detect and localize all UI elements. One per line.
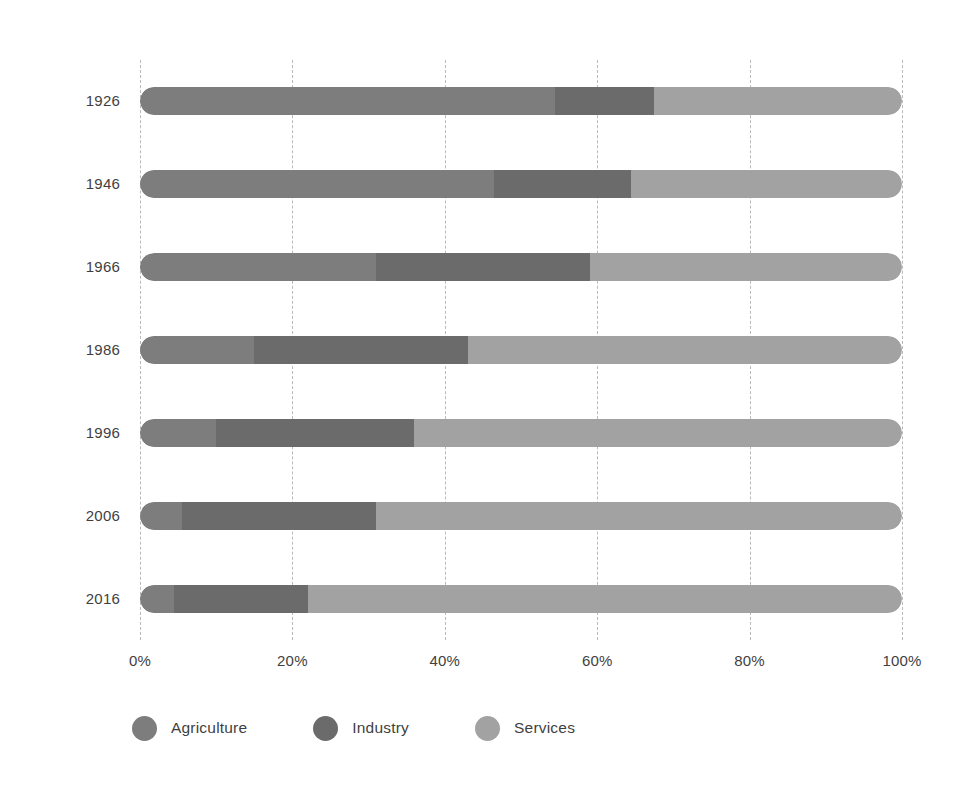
stacked-bar[interactable]: [140, 585, 902, 613]
bar-segment-services[interactable]: [631, 170, 902, 198]
bar-segment-industry[interactable]: [555, 87, 654, 115]
legend-label-industry: Industry: [352, 719, 409, 737]
stacked-bar[interactable]: [140, 253, 902, 281]
bar-segment-industry[interactable]: [376, 253, 589, 281]
y-axis-label-1946: 1946: [40, 175, 120, 192]
legend-item-agriculture[interactable]: Agriculture: [132, 716, 247, 741]
x-axis-tick-0pct: 0%: [129, 652, 151, 669]
y-axis-label-1986: 1986: [40, 341, 120, 358]
bar-row-1946: [140, 170, 902, 198]
bar-segment-services[interactable]: [308, 585, 902, 613]
stacked-bar-chart: 1926194619661986199620062016 0%20%40%60%…: [0, 0, 970, 799]
y-axis-label-1966: 1966: [40, 258, 120, 275]
gridline-100pct: [902, 60, 903, 640]
bar-row-1926: [140, 87, 902, 115]
bar-segment-agriculture[interactable]: [140, 419, 216, 447]
bar-row-1966: [140, 253, 902, 281]
stacked-bar[interactable]: [140, 87, 902, 115]
y-axis-label-1926: 1926: [40, 92, 120, 109]
bar-segment-agriculture[interactable]: [140, 170, 494, 198]
circle-swatch-icon: [132, 716, 157, 741]
legend-label-services: Services: [514, 719, 575, 737]
bar-segment-agriculture[interactable]: [140, 585, 174, 613]
y-axis-label-1996: 1996: [40, 424, 120, 441]
legend-item-services[interactable]: Services: [475, 716, 575, 741]
bar-segment-industry[interactable]: [174, 585, 307, 613]
bar-segment-agriculture[interactable]: [140, 502, 182, 530]
bar-segment-agriculture[interactable]: [140, 253, 376, 281]
stacked-bar[interactable]: [140, 170, 902, 198]
bar-segment-services[interactable]: [468, 336, 902, 364]
circle-swatch-icon: [475, 716, 500, 741]
stacked-bar[interactable]: [140, 502, 902, 530]
bar-segment-agriculture[interactable]: [140, 87, 555, 115]
circle-swatch-icon: [313, 716, 338, 741]
stacked-bar[interactable]: [140, 336, 902, 364]
legend-item-industry[interactable]: Industry: [313, 716, 409, 741]
bar-row-1986: [140, 336, 902, 364]
x-axis-tick-20pct: 20%: [277, 652, 308, 669]
bar-segment-industry[interactable]: [182, 502, 376, 530]
bar-segment-industry[interactable]: [254, 336, 467, 364]
bar-segment-services[interactable]: [654, 87, 902, 115]
x-axis-tick-80pct: 80%: [734, 652, 765, 669]
y-axis-label-2006: 2006: [40, 507, 120, 524]
bar-row-1996: [140, 419, 902, 447]
y-axis-label-2016: 2016: [40, 590, 120, 607]
bar-segment-services[interactable]: [414, 419, 902, 447]
bar-segment-agriculture[interactable]: [140, 336, 254, 364]
bar-segment-industry[interactable]: [216, 419, 414, 447]
x-axis-labels: 0%20%40%60%80%100%: [140, 652, 902, 676]
x-axis-tick-60pct: 60%: [582, 652, 613, 669]
stacked-bar[interactable]: [140, 419, 902, 447]
bar-segment-services[interactable]: [590, 253, 902, 281]
bar-row-2006: [140, 502, 902, 530]
bar-row-2016: [140, 585, 902, 613]
bar-segment-services[interactable]: [376, 502, 902, 530]
x-axis-tick-100pct: 100%: [882, 652, 921, 669]
legend-label-agriculture: Agriculture: [171, 719, 247, 737]
plot-area: [140, 60, 902, 640]
y-axis-labels: 1926194619661986199620062016: [20, 60, 120, 640]
bar-segment-industry[interactable]: [494, 170, 631, 198]
chart-legend: AgricultureIndustryServices: [132, 708, 641, 748]
x-axis-tick-40pct: 40%: [429, 652, 460, 669]
